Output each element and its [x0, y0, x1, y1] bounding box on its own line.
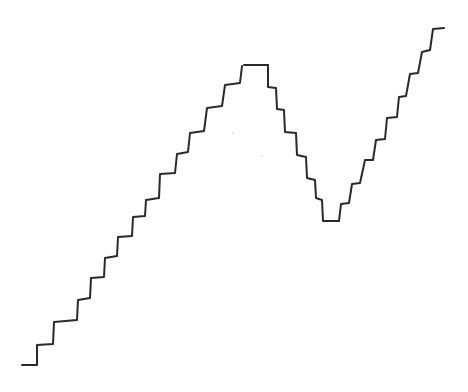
speck — [232, 132, 234, 134]
right-ascent-stroke — [339, 28, 444, 221]
speck — [261, 155, 263, 157]
descent-stroke — [268, 65, 339, 221]
staircase-drawing — [0, 0, 468, 392]
paper-specks — [232, 132, 263, 157]
staircase-line — [22, 28, 444, 365]
left-ascent-stroke — [22, 66, 242, 365]
